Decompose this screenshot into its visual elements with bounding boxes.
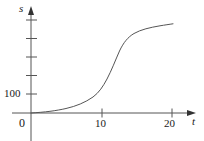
x-axis-label: t — [192, 116, 195, 127]
origin-label: 0 — [19, 117, 25, 129]
data-curve — [31, 24, 173, 113]
x-tick-label-20: 20 — [164, 118, 175, 129]
graph-figure: s t 0 100 10 20 — [0, 0, 204, 141]
y-axis-arrowhead — [28, 6, 34, 15]
y-tick-label-100: 100 — [4, 88, 21, 99]
x-tick-label-10: 10 — [95, 118, 106, 129]
y-axis-label: s — [19, 3, 23, 14]
